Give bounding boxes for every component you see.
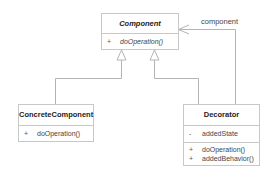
operations-section: + doOperation() + addedBehavior() (184, 142, 259, 165)
generalization-arrow-icon (150, 50, 159, 60)
association-label: component (201, 17, 238, 26)
operation: + doOperation() (19, 129, 93, 138)
operations-section: + doOperation() (102, 33, 178, 49)
generalization-arrow-icon (117, 50, 126, 60)
visibility: + (107, 37, 111, 46)
operation-name: addedBehavior() (202, 154, 254, 163)
visibility: + (24, 129, 28, 138)
visibility: + (189, 145, 193, 154)
operation: + doOperation() (102, 37, 178, 46)
operation-name: doOperation() (37, 129, 80, 138)
class-component[interactable]: Component + doOperation() (101, 13, 179, 50)
association-line (178, 30, 236, 105)
operation-name: doOperation() (202, 145, 245, 154)
attributes-section: - addedState (184, 125, 259, 142)
operation: + doOperation() (184, 145, 259, 154)
attribute-name: addedState (202, 129, 238, 138)
class-concrete-component[interactable]: ConcreteComponent + doOperation() (18, 104, 94, 142)
generalization-line-concrete (56, 60, 122, 104)
operation-name: doOperation() (120, 37, 163, 46)
attribute: - addedState (184, 129, 259, 138)
generalization-line-decorator (155, 60, 199, 104)
visibility: - (189, 129, 191, 138)
visibility: + (189, 154, 193, 163)
class-name: Component (102, 14, 178, 33)
operations-section: + doOperation() (19, 125, 93, 141)
class-decorator[interactable]: Decorator - addedState + doOperation() +… (183, 104, 260, 166)
class-name: ConcreteComponent (19, 105, 93, 125)
operation: + addedBehavior() (184, 154, 259, 163)
class-name: Decorator (184, 105, 259, 125)
